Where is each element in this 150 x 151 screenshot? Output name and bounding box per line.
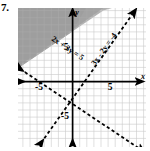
figure-container: 7. xyxy=(0,0,150,151)
y-axis-label: y xyxy=(74,8,79,17)
problem-number: 7. xyxy=(1,1,9,13)
x-axis-label: x xyxy=(140,72,145,81)
tick-label-x-positive: 5 xyxy=(108,82,113,92)
tick-label-y-negative: -5 xyxy=(61,111,69,121)
tick-label-x-negative: -5 xyxy=(35,82,43,92)
coordinate-plane: -5 5 5 -5 x y 2x + 3y = 5 3x - 2y = -4 xyxy=(18,8,146,147)
